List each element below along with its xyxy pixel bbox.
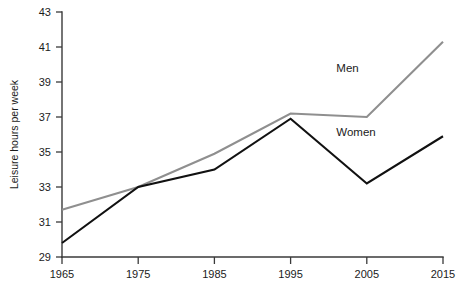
y-tick-label: 33 (39, 181, 51, 193)
chart-canvas: 2931333537394143 Leisure hours per week … (0, 0, 469, 296)
y-tick-label: 37 (39, 111, 51, 123)
x-tick-label: 1985 (202, 268, 226, 280)
y-tick-label: 31 (39, 216, 51, 228)
y-tick-label: 39 (39, 76, 51, 88)
y-tick-label: 35 (39, 146, 51, 158)
series-label-men: Men (336, 62, 358, 74)
series-label-group: MenWomen (336, 62, 375, 139)
x-tick-label: 1995 (278, 268, 302, 280)
x-tick-label: 2015 (431, 268, 455, 280)
x-tick-label: 1975 (126, 268, 150, 280)
x-tick-label: 2005 (355, 268, 379, 280)
x-tick-label: 1965 (50, 268, 74, 280)
leisure-hours-line-chart: 2931333537394143 Leisure hours per week … (0, 0, 469, 296)
series-group (62, 42, 443, 243)
series-line-men (62, 42, 443, 210)
x-tick-group: 196519751985199520052015 (50, 257, 455, 280)
y-tick-group: 2931333537394143 (39, 6, 62, 263)
y-tick-label: 43 (39, 6, 51, 18)
y-axis-title: Leisure hours per week (8, 79, 20, 189)
x-axis-group: 196519751985199520052015 (50, 257, 455, 280)
y-axis-group: 2931333537394143 Leisure hours per week (8, 6, 62, 263)
y-tick-label: 29 (39, 251, 51, 263)
y-tick-label: 41 (39, 41, 51, 53)
series-line-women (62, 119, 443, 243)
series-label-women: Women (336, 126, 375, 138)
